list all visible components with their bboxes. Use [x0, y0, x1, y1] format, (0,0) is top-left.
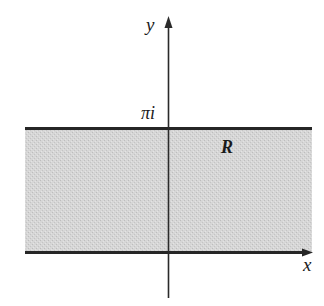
- diagram-canvas: [0, 0, 324, 306]
- y-axis-arrowhead-icon: [165, 16, 173, 28]
- strip-diagram: y πi R x: [0, 0, 324, 306]
- x-axis-label: x: [303, 255, 311, 274]
- region-label: R: [221, 138, 233, 156]
- top-boundary-label: πi: [141, 104, 155, 122]
- y-axis-label: y: [146, 15, 154, 34]
